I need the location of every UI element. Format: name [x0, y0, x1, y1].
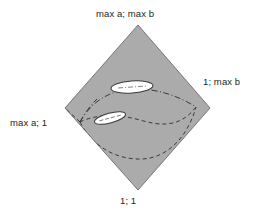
figure-container: max a; max b 1; max b max a; 1 1; 1 [0, 0, 261, 216]
vertex-label-bottom: 1; 1 [120, 195, 136, 206]
vertex-label-top: max a; max b [96, 8, 154, 19]
vertex-label-right: 1; max b [203, 76, 240, 87]
diamond-face [65, 25, 210, 190]
vertex-label-left: max a; 1 [10, 117, 47, 128]
diamond-diagram-svg [0, 0, 261, 216]
